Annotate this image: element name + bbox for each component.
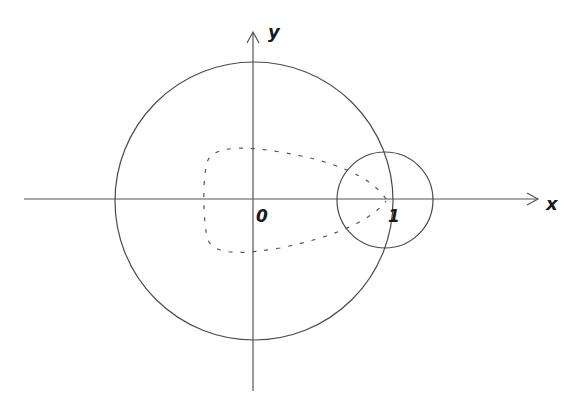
y-axis-label: y <box>268 21 281 42</box>
large-circle <box>115 62 393 340</box>
diagram-canvas: y x 0 1 <box>0 0 575 418</box>
unit-label: 1 <box>388 206 400 226</box>
origin-label: 0 <box>256 206 268 226</box>
dashed-contour <box>204 148 386 252</box>
x-axis <box>24 193 538 205</box>
x-axis-label: x <box>545 193 559 214</box>
small-circle <box>337 152 433 248</box>
